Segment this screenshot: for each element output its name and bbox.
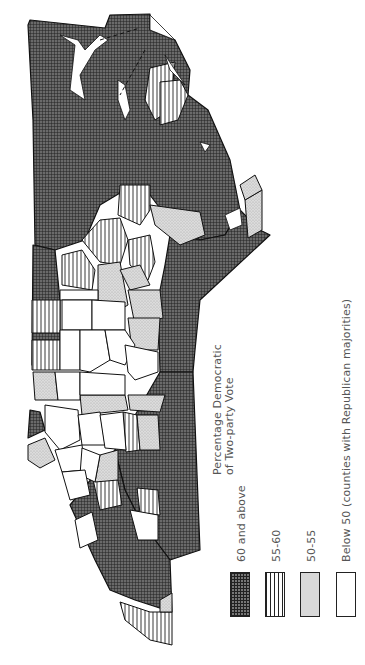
- legend-swatch-55-60: [265, 572, 285, 617]
- legend-swatch-50-55: [300, 572, 320, 617]
- choropleth-map: [0, 0, 365, 665]
- legend-label-55-60: 55-60: [271, 530, 283, 562]
- legend-label-60-above: 60 and above: [236, 485, 248, 562]
- legend-title: Percentage Democratic of Two-party Vote: [212, 344, 236, 475]
- legend-label-50-55: 50-55: [306, 530, 318, 562]
- legend-label-below-50: Below 50 (counties with Republican major…: [341, 299, 353, 562]
- legend-swatch-60-above: [230, 572, 250, 617]
- legend-title-line2: of Two-party Vote: [224, 344, 236, 475]
- legend-swatch-below-50: [336, 572, 356, 617]
- county-region-small-west-grid: [28, 410, 45, 438]
